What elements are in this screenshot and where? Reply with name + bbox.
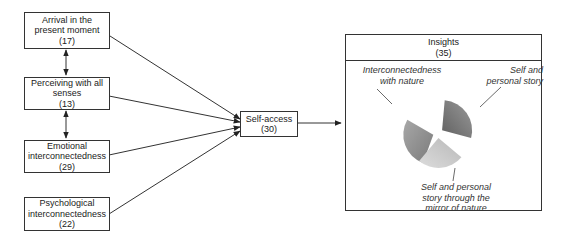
node-emotional-title-2: interconnectedness	[28, 151, 106, 162]
node-perceiving-count: (13)	[59, 99, 75, 110]
node-psychological-title-1: Psychological	[39, 198, 94, 209]
node-psychological: Psychological interconnectedness (22)	[24, 197, 110, 231]
node-arrival: Arrival in the present moment (17)	[24, 12, 110, 49]
pie-label-mirror-1: Self and personal	[406, 182, 506, 193]
pie-label-self-personal-story: Self and personal story	[471, 65, 543, 86]
edge-psychological-to-self-access	[109, 131, 240, 214]
leader-line-self-personal-story	[480, 87, 501, 107]
pie-label-self-personal-story-2: personal story	[471, 76, 543, 87]
pie-label-interconnectedness: Interconnectedness with nature	[352, 65, 452, 86]
node-perceiving: Perceiving with all senses (13)	[24, 77, 110, 110]
edge-emotional-to-self-access	[109, 127, 240, 155]
edge-arrival-to-self-access	[110, 36, 240, 119]
insights-count: (35)	[346, 48, 541, 59]
node-psychological-count: (22)	[59, 219, 75, 230]
node-psychological-title-2: interconnectedness	[28, 209, 106, 220]
pie-label-self-personal-story-1: Self and	[471, 65, 543, 76]
insights-header: Insights (35)	[346, 35, 541, 61]
node-insights: Insights (35) Interconnectedness with na…	[345, 34, 542, 211]
node-arrival-title-2: present moment	[34, 25, 99, 36]
node-emotional-count: (29)	[59, 162, 75, 173]
node-perceiving-title-1: Perceiving with all	[31, 78, 103, 89]
pie-label-mirror-of-nature: Self and personal story through the mirr…	[406, 182, 506, 214]
node-emotional: Emotional interconnectedness (29)	[24, 140, 110, 173]
leader-line-mirror-of-nature	[453, 168, 455, 181]
leader-line-interconnectedness	[377, 89, 392, 104]
pie-slice-self-personal-story	[442, 100, 472, 138]
node-self-access-title: Self-access	[246, 114, 293, 125]
pie-label-interconnectedness-1: Interconnectedness	[352, 65, 452, 76]
node-self-access-count: (30)	[261, 124, 277, 135]
node-perceiving-title-2: senses	[53, 88, 82, 99]
edge-perceiving-to-self-access	[109, 96, 240, 122]
node-self-access: Self-access (30)	[240, 111, 298, 137]
pie-label-mirror-2: story through the	[406, 193, 506, 204]
insights-title: Insights	[346, 37, 541, 48]
node-emotional-title-1: Emotional	[47, 141, 87, 152]
node-arrival-count: (17)	[59, 36, 75, 47]
pie-label-mirror-3: mirror of nature	[406, 203, 506, 214]
node-arrival-title-1: Arrival in the	[42, 15, 92, 26]
pie-label-interconnectedness-2: with nature	[352, 76, 452, 87]
